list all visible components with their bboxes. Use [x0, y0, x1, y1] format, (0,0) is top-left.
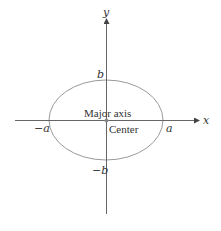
ellipse-diagram: y x b −b −a a Major axis Center	[0, 0, 221, 231]
b-bottom-label: −b	[92, 164, 108, 177]
b-top-label: b	[97, 68, 104, 81]
x-axis-label: x	[203, 114, 210, 127]
center-label: Center	[109, 123, 139, 135]
a-left-label: −a	[34, 122, 50, 135]
y-axis-label: y	[102, 6, 110, 19]
major-axis-label: Major axis	[84, 107, 131, 119]
a-right-label: a	[166, 122, 173, 135]
center-point	[105, 119, 109, 123]
